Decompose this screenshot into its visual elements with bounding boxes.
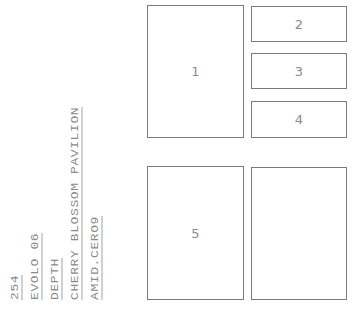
- layout-box-2: 2: [251, 6, 347, 42]
- section-name: DEPTH: [52, 258, 62, 300]
- article-title: CHERRY BLOSSOM PAVILION: [72, 107, 82, 300]
- box-label: 3: [295, 64, 303, 79]
- layout-box-3: 3: [251, 53, 347, 89]
- layout-box-6: [251, 167, 347, 300]
- layout-box-5: 5: [147, 166, 244, 300]
- box-label: 2: [295, 17, 303, 32]
- magazine-name: EVOLO 06: [32, 233, 42, 300]
- article-credit: AMID.CERO9: [92, 216, 102, 300]
- box-label: 5: [191, 226, 199, 241]
- page-number: 254: [12, 275, 22, 300]
- box-label: 4: [295, 112, 303, 127]
- box-label: 1: [191, 64, 199, 79]
- layout-box-4: 4: [251, 101, 347, 138]
- layout-box-1: 1: [147, 5, 244, 138]
